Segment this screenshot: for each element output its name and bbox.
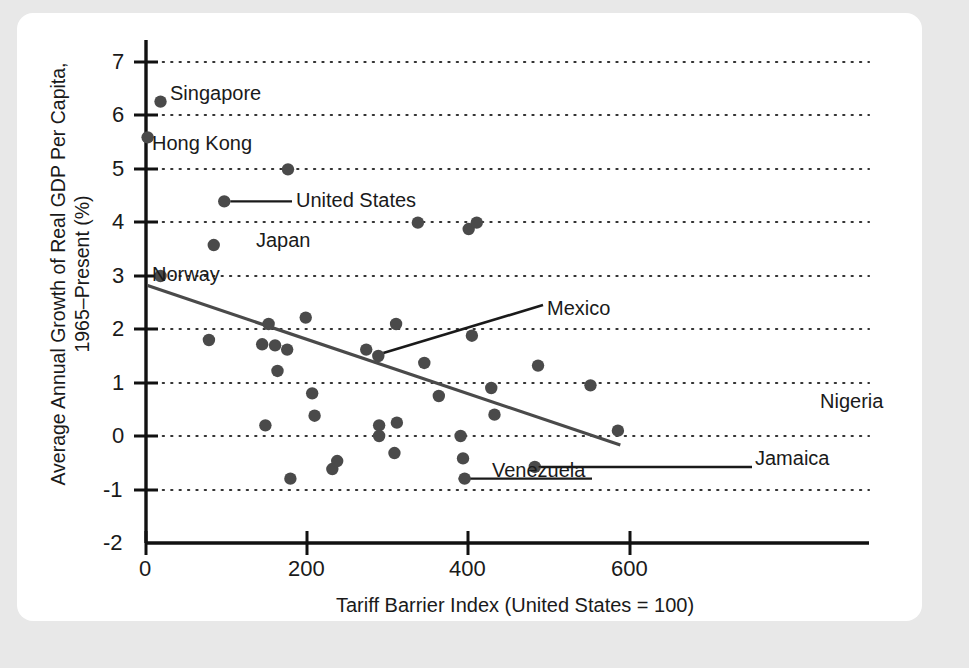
data-point [269, 339, 281, 351]
data-point [466, 330, 478, 342]
chart-page: 7 6 5 4 3 2 1 0 -1 -2 0 200 400 600 Tari… [0, 0, 969, 668]
y-tick-label-0: 0 [112, 423, 124, 449]
data-point [218, 195, 230, 207]
point-label-japan: Japan [256, 229, 311, 252]
y-tick-label-4: 4 [112, 209, 124, 235]
data-point [208, 239, 220, 251]
data-point [458, 472, 470, 484]
x-tick-label-0: 0 [139, 556, 151, 582]
x-tick-label-400: 400 [449, 556, 486, 582]
point-label-mexico: Mexico [547, 297, 610, 320]
data-point [259, 419, 271, 431]
data-point [488, 408, 500, 420]
data-point [391, 416, 403, 428]
data-point [372, 350, 384, 362]
point-label-nigeria: Nigeria [820, 390, 883, 413]
data-point [262, 318, 274, 330]
data-point [454, 430, 466, 442]
data-point [457, 452, 469, 464]
y-axis-title: Average Annual Growth of Real GDP Per Ca… [46, 14, 94, 534]
data-point [373, 430, 385, 442]
data-point [388, 447, 400, 459]
data-point [331, 455, 343, 467]
data-point [300, 311, 312, 323]
data-point [390, 318, 402, 330]
y-tick-label-7: 7 [112, 49, 124, 75]
data-point [418, 357, 430, 369]
data-point [308, 410, 320, 422]
point-label-norway: Norway [152, 263, 220, 286]
data-point [282, 163, 294, 175]
data-point [412, 216, 424, 228]
data-point [485, 382, 497, 394]
data-point [271, 365, 283, 377]
data-point [373, 419, 385, 431]
data-point [154, 95, 166, 107]
data-point [256, 338, 268, 350]
data-point [284, 472, 296, 484]
point-label-venezuela: Venezuela [492, 459, 585, 482]
leader-mexico-a [381, 316, 385, 319]
point-label-singapore: Singapore [170, 82, 261, 105]
y-axis-title-line1: Average Annual Growth of Real GDP Per Ca… [46, 14, 70, 534]
y-tick-label-2: 2 [112, 316, 124, 342]
x-axis-title: Tariff Barrier Index (United States = 10… [336, 594, 694, 617]
y-tick-label-neg1: -1 [103, 477, 123, 503]
y-tick-label-neg2: -2 [103, 530, 123, 556]
y-tick-label-5: 5 [112, 156, 124, 182]
point-label-united-states: United States [296, 189, 416, 212]
data-point [532, 359, 544, 371]
data-point [612, 424, 624, 436]
y-tick-label-3: 3 [112, 263, 124, 289]
y-tick-label-6: 6 [112, 102, 124, 128]
data-point [471, 216, 483, 228]
data-point [281, 343, 293, 355]
point-label-jamaica: Jamaica [755, 447, 829, 470]
y-tick-label-1: 1 [112, 370, 124, 396]
x-tick-label-600: 600 [611, 556, 648, 582]
point-label-hong-kong: Hong Kong [152, 132, 252, 155]
y-axis-title-line2: 1965–Present (%) [70, 14, 94, 534]
data-point [433, 390, 445, 402]
data-point [360, 343, 372, 355]
data-point [203, 334, 215, 346]
x-tick-label-200: 200 [288, 556, 325, 582]
data-point [584, 379, 596, 391]
gridlines [146, 62, 869, 490]
data-point [306, 387, 318, 399]
